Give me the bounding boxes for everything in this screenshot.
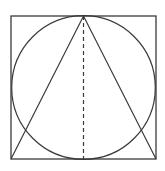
geometry-diagram [0,0,165,171]
